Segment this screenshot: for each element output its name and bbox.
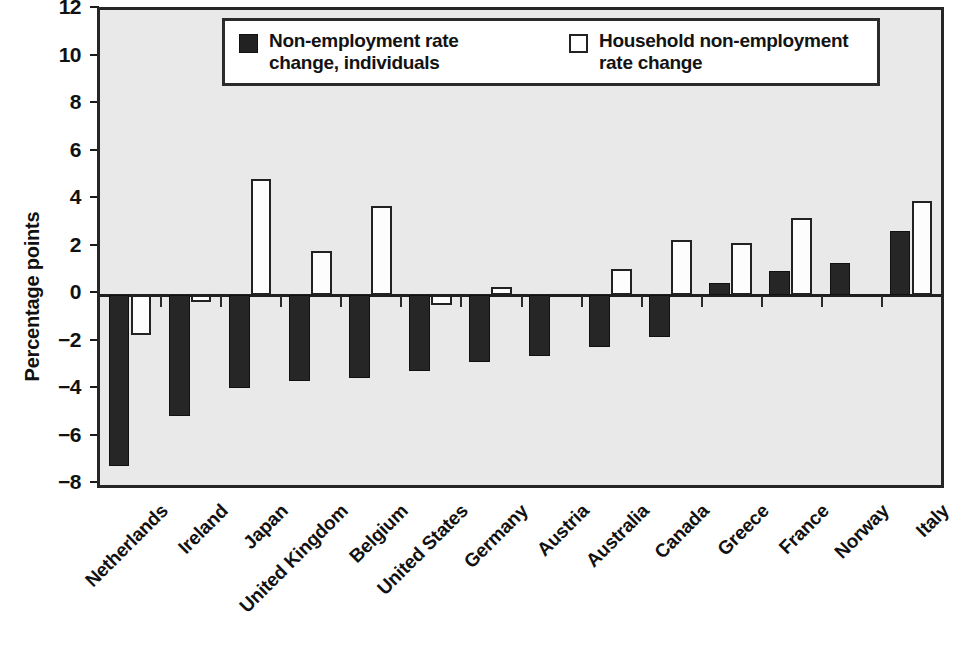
y-tick-label: 8 [1, 90, 81, 114]
bar-household [371, 206, 392, 295]
y-tick-label: −6 [1, 423, 81, 447]
bar-individuals [589, 295, 610, 347]
x-axis-labels: NetherlandsIrelandJapanUnited KingdomBel… [97, 492, 944, 642]
y-tick-label: 0 [1, 280, 81, 304]
bar-household [251, 179, 272, 295]
x-tick-mark [581, 296, 583, 307]
y-tick-label: 4 [1, 185, 81, 209]
legend-label-line1: Household non-employment [599, 30, 848, 51]
y-tick-label: 2 [1, 233, 81, 257]
y-axis-ticks: 121086420−2−4−6−8 [0, 0, 97, 500]
y-tick-label: −8 [1, 470, 81, 494]
bar-individuals [649, 295, 670, 337]
x-tick-mark [280, 296, 282, 307]
x-tick-mark [160, 296, 162, 307]
x-tick-mark [521, 296, 523, 307]
y-tick-label: 12 [1, 0, 81, 19]
bar-individuals [890, 231, 911, 295]
bar-household [791, 218, 812, 295]
bar-individuals [349, 295, 370, 378]
bar-individuals [109, 295, 130, 466]
x-tick-mark [400, 296, 402, 307]
legend-entry-household-non-employment: Household non-employment rate change [569, 30, 848, 74]
bar-household [191, 295, 212, 302]
x-tick-mark [881, 296, 883, 307]
bar-individuals [289, 295, 310, 381]
x-tick-mark [460, 296, 462, 307]
bar-household [131, 295, 152, 335]
x-tick-mark [761, 296, 763, 307]
legend-entry-non-employment-individuals: Non-employment rate change, individuals [239, 30, 569, 74]
legend-swatch-outlined-square-icon [569, 34, 588, 53]
bar-individuals [169, 295, 190, 416]
bar-individuals [229, 295, 250, 388]
legend-label-line2: rate change [599, 52, 702, 73]
y-tick-label: −4 [1, 375, 81, 399]
x-tick-mark [220, 296, 222, 307]
bar-individuals [709, 283, 730, 295]
x-tick-mark [821, 296, 823, 307]
bar-individuals [769, 271, 790, 295]
bar-individuals [830, 263, 851, 295]
bar-household [912, 201, 933, 295]
bar-individuals [529, 295, 550, 356]
x-tick-mark [701, 296, 703, 307]
chart-legend: Non-employment rate change, individuals … [222, 18, 880, 86]
bar-group [109, 10, 152, 485]
legend-label-household-non-employment: Household non-employment rate change [599, 30, 848, 74]
bar-household [491, 287, 512, 295]
bar-household [311, 251, 332, 295]
y-tick-label: 6 [1, 138, 81, 162]
x-tick-mark [941, 296, 943, 307]
legend-label-non-employment-individuals: Non-employment rate change, individuals [269, 30, 459, 74]
bar-household [671, 240, 692, 295]
bar-individuals [469, 295, 490, 362]
bar-group [169, 10, 212, 485]
y-tick-label: 10 [1, 43, 81, 67]
bar-individuals [409, 295, 430, 371]
x-tick-mark [340, 296, 342, 307]
bar-household [611, 269, 632, 295]
bar-household [431, 295, 452, 305]
legend-swatch-filled-square-icon [239, 34, 258, 53]
legend-label-line2: change, individuals [269, 52, 440, 73]
bar-household [731, 243, 752, 295]
bar-group [890, 10, 933, 485]
legend-label-line1: Non-employment rate [269, 30, 459, 51]
x-tick-mark [641, 296, 643, 307]
y-tick-label: −2 [1, 328, 81, 352]
